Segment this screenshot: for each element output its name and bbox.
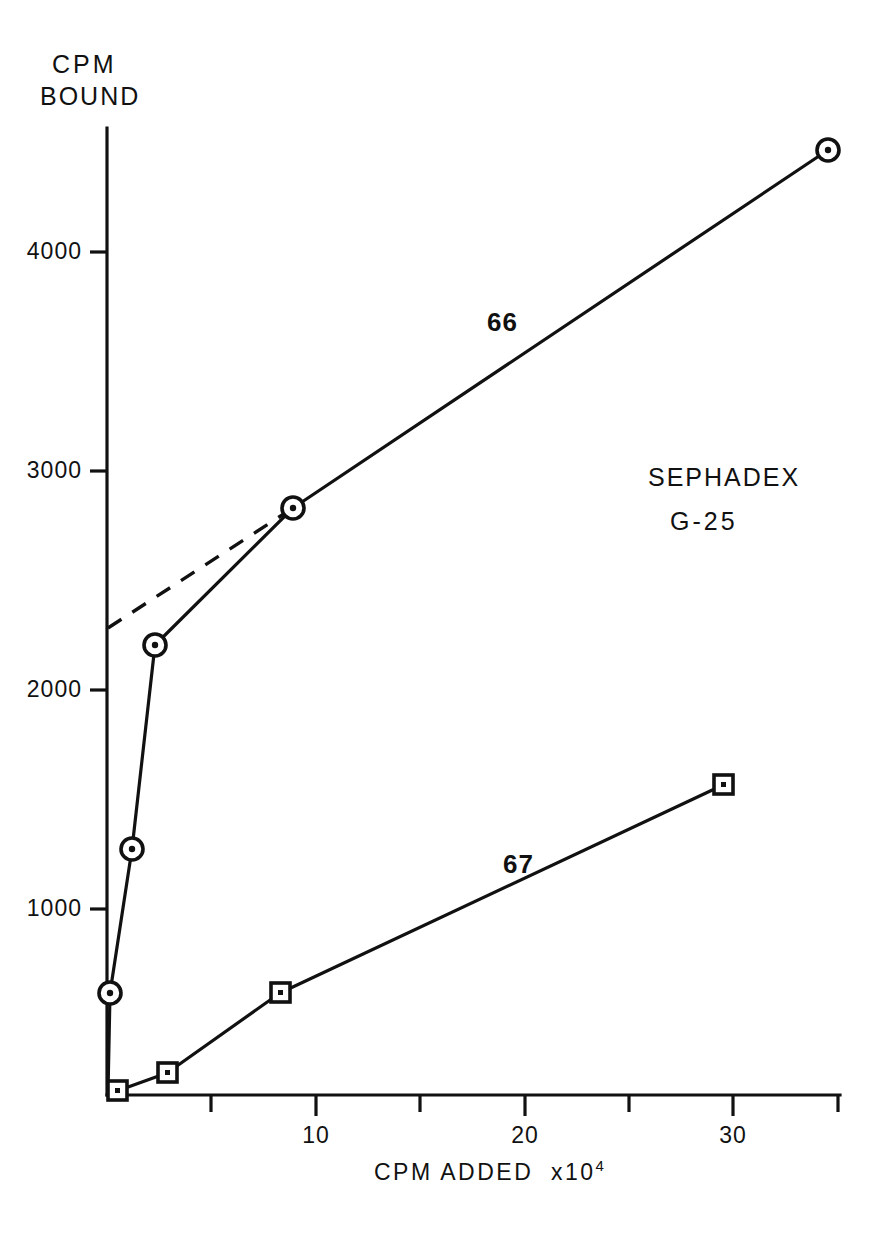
series-label-66: 66 [487,307,518,338]
data-point-marker [144,634,166,656]
data-point-marker [282,497,304,519]
y-tick-label-3000: 3000 [0,457,82,484]
chart-figure: CPM BOUND 4000 3000 2000 1000 10 20 30 C… [0,0,881,1249]
y-tick-label-1000: 1000 [0,895,82,922]
y-tick-label-2000: 2000 [0,676,82,703]
column-annotation: SEPHADEX G-25 [648,455,800,543]
series-66-line [108,150,828,1093]
y-axis-title-line2: BOUND [40,82,140,111]
data-point-marker [271,983,290,1002]
series-extrapolation-line [108,508,293,628]
y-axis-title-line1: CPM [52,50,117,79]
data-point-marker [99,982,121,1004]
x-tick-label-10: 10 [286,1122,346,1149]
y-tick-label-4000: 4000 [0,238,82,265]
plot-area [0,0,881,1249]
x-axis-title-text: CPM ADDED x10 [374,1159,596,1185]
column-annotation-line1: SEPHADEX [648,455,800,499]
x-tick-label-20: 20 [495,1122,555,1149]
x-axis-ticks [211,1095,838,1116]
series-66-markers [99,139,839,1004]
x-axis-title-exponent: 4 [596,1157,604,1174]
axes [107,128,840,1095]
column-annotation-line2: G-25 [670,499,800,543]
series-67-line [117,785,723,1091]
data-point-marker [121,838,143,860]
x-tick-label-30: 30 [703,1122,763,1149]
data-point-marker [158,1063,177,1082]
y-axis-ticks [90,252,107,909]
x-axis-title: CPM ADDED x104 [374,1157,604,1186]
data-point-marker [817,139,839,161]
data-point-marker [108,1081,127,1100]
series-label-67: 67 [503,849,534,880]
data-point-marker [714,775,733,794]
